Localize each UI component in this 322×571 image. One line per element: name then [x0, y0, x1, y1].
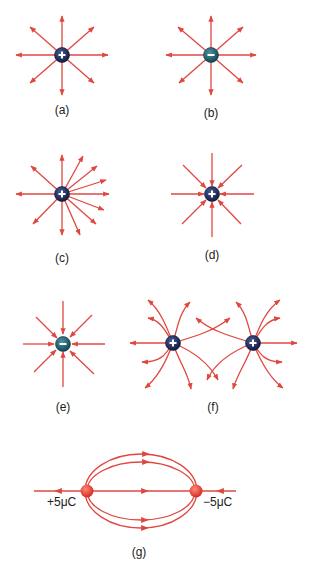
field-lines-diagram: [0, 0, 322, 571]
panel-label-b: (b): [204, 106, 219, 120]
charge-g-right: [190, 485, 203, 498]
panel-label-d: (d): [205, 248, 220, 262]
charge-d-positive: [205, 187, 220, 202]
charge-f-right-positive: [246, 336, 261, 351]
charge-e-negative: [56, 337, 71, 352]
panel-label-e: (e): [56, 400, 71, 414]
panel-label-c: (c): [55, 251, 69, 265]
panel-label-g: (g): [132, 545, 147, 559]
charge-g-left: [81, 485, 94, 498]
panel-label-a: (a): [55, 103, 70, 117]
charge-c-positive: [55, 187, 70, 202]
charge-label-negative: −5μC: [203, 495, 232, 509]
charge-b-negative: [204, 48, 219, 63]
panel-label-f: (f): [207, 400, 218, 414]
panel-g-field-lines: [34, 454, 236, 528]
panel-f-field-lines: [130, 300, 297, 389]
charge-f-left-positive: [166, 336, 181, 351]
charge-a-positive: [55, 48, 70, 63]
charge-label-positive: +5μC: [47, 495, 76, 509]
